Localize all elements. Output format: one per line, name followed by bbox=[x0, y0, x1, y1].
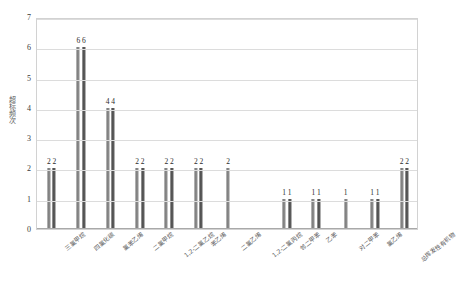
x-axis-label: 对二甲苯 bbox=[357, 231, 380, 251]
bar-value-label: 2 bbox=[167, 158, 177, 166]
bar bbox=[106, 108, 110, 229]
x-axis-label: 乙苯 bbox=[325, 231, 339, 244]
y-axis-tick-labels: 76543210 bbox=[16, 14, 34, 230]
x-axis-label: 总挥发性有机物 bbox=[419, 231, 456, 262]
bar bbox=[52, 168, 56, 229]
bar-value-label: 2 bbox=[138, 158, 148, 166]
x-axis-label: 氯乙烯 bbox=[385, 231, 403, 248]
x-axis-line bbox=[37, 228, 417, 229]
bar bbox=[170, 168, 174, 229]
bar-value-label: 1 bbox=[314, 189, 324, 197]
bar bbox=[288, 199, 292, 229]
bar bbox=[164, 168, 168, 229]
bar bbox=[370, 199, 374, 229]
bar bbox=[317, 199, 321, 229]
gridline bbox=[37, 201, 417, 202]
gridline bbox=[37, 80, 417, 81]
bar bbox=[311, 199, 315, 229]
bar bbox=[76, 47, 80, 229]
bar bbox=[141, 168, 145, 229]
bar-value-label: 2 bbox=[223, 158, 233, 166]
bar bbox=[135, 168, 139, 229]
bar-value-label: 2 bbox=[196, 158, 206, 166]
bar-value-label: 1 bbox=[341, 189, 351, 197]
bar bbox=[47, 168, 51, 229]
gridline bbox=[37, 170, 417, 171]
x-axis-label: 二氯甲烷 bbox=[151, 231, 174, 251]
y-tick-label: 3 bbox=[27, 135, 31, 143]
bar bbox=[111, 108, 115, 229]
bars-layer: 2266442222222111111122 bbox=[37, 19, 417, 229]
bar-value-label: 1 bbox=[285, 189, 295, 197]
gridline bbox=[37, 140, 417, 141]
x-axis-label: 氯苯乙烯 bbox=[122, 231, 145, 251]
y-tick-label: 4 bbox=[27, 105, 31, 113]
bar bbox=[82, 47, 86, 229]
x-axis-label: 二氯乙烯 bbox=[239, 231, 262, 251]
bar-value-label: 2 bbox=[49, 158, 59, 166]
y-axis-title: 超标频次 bbox=[2, 96, 16, 124]
y-tick-label: 7 bbox=[27, 14, 31, 22]
bar bbox=[194, 168, 198, 229]
gridline bbox=[37, 110, 417, 111]
plot-area: 2266442222222111111122 bbox=[36, 18, 418, 230]
gridline bbox=[37, 49, 417, 50]
bar bbox=[282, 199, 286, 229]
bar bbox=[226, 168, 230, 229]
y-tick-label: 2 bbox=[27, 165, 31, 173]
x-axis-label: 四氯化碳 bbox=[92, 231, 115, 251]
bar-value-label: 6 bbox=[79, 37, 89, 45]
y-tick-label: 1 bbox=[27, 196, 31, 204]
y-tick-label: 6 bbox=[27, 44, 31, 52]
bar-value-label: 2 bbox=[402, 158, 412, 166]
y-tick-label: 0 bbox=[27, 226, 31, 234]
bar bbox=[344, 199, 348, 229]
bar bbox=[405, 168, 409, 229]
bar bbox=[376, 199, 380, 229]
bar bbox=[400, 168, 404, 229]
bar-value-label: 1 bbox=[373, 189, 383, 197]
x-axis-category-labels: 三氯甲烷四氯化碳氯苯乙烯二氯甲烷1,2-二氯乙烷苯乙烯二氯乙烯1,2-二氯丙烷邻… bbox=[36, 231, 418, 301]
bar bbox=[199, 168, 203, 229]
y-tick-label: 5 bbox=[27, 75, 31, 83]
bar-value-label: 4 bbox=[108, 98, 118, 106]
gridline bbox=[37, 19, 417, 20]
x-axis-label: 三氯甲烷 bbox=[63, 231, 86, 251]
